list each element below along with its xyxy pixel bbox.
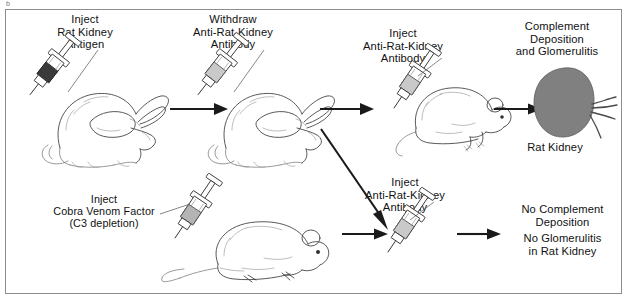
label-line: Complement [490,20,624,33]
label-no-glomerulitis-outcome: No Glomerulitis in Rat Kidney [500,232,625,257]
arrow-right-icon [342,229,388,240]
arrow-4 [340,225,390,243]
leader-line-inject-top [414,56,446,80]
arrow-right-icon [320,103,374,115]
label-line: No Complement [500,203,625,216]
kidney-icon [534,68,617,138]
label-line: No Glomerulitis [500,232,625,245]
arrow-2 [318,100,376,118]
label-line: Withdraw [168,13,298,26]
label-line: Inject [30,13,140,26]
figure-root: b Inject Rat Kidney Antigen Withdraw Ant… [0,0,629,304]
arrow-right-icon [170,103,228,115]
label-rat-kidney-caption: Rat Kidney [505,141,605,154]
leader-line-cvf [158,202,194,218]
label-complement-outcome: Complement Deposition and Glomerulitis [490,20,624,58]
label-line: Deposition [500,216,625,229]
panel-letter: b [6,0,14,7]
label-line: in Rat Kidney [500,245,625,258]
arrow-right-icon [457,229,501,240]
leader-line-withdraw [228,48,268,96]
kidney-illustration [530,66,620,142]
arrow-5 [455,225,503,243]
leader-line-antigen [62,48,102,96]
arrow-1 [168,100,230,118]
label-line: and Glomerulitis [490,45,624,58]
label-line: Deposition [490,33,624,46]
label-no-complement-outcome: No Complement Deposition [500,203,625,228]
leader-line-inject-bottom [406,200,438,224]
